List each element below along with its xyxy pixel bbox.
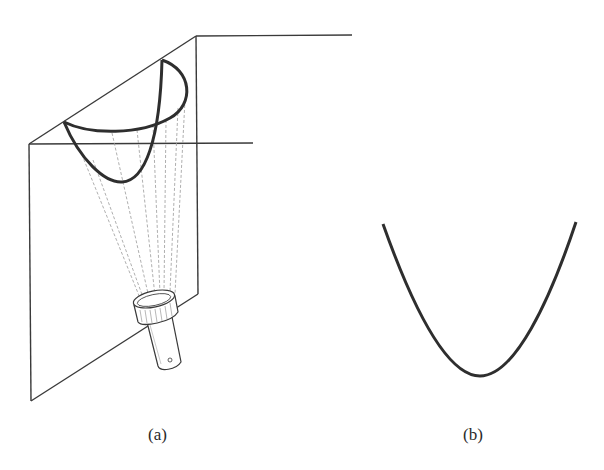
panel-b-illustration <box>383 222 576 376</box>
panel-a-illustration <box>29 35 352 401</box>
flashlight-icon <box>132 287 181 370</box>
front-plane <box>29 36 253 401</box>
caption-b: (b) <box>463 425 483 445</box>
caption-a: (a) <box>148 425 167 445</box>
cone-rim-curve <box>64 60 187 131</box>
projected-parabola <box>64 60 162 182</box>
back-plane <box>196 35 352 294</box>
parabola-flashlight-diagram <box>0 0 604 470</box>
parabola-curve <box>383 222 576 376</box>
